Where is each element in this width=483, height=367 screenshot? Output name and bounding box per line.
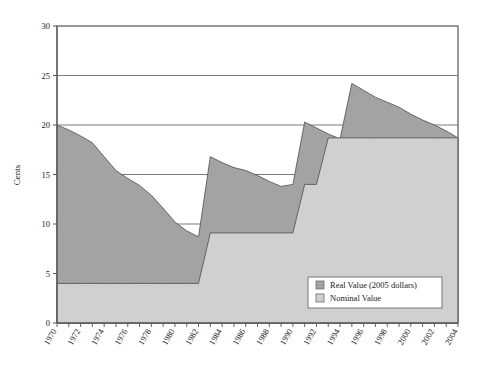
y-tick-label-20: 20 xyxy=(42,120,51,130)
legend-label-0: Real Value (2005 dollars) xyxy=(330,280,417,290)
area-chart: 051015202530 Cents 197019721974197619781… xyxy=(0,0,483,367)
y-tick-label-5: 5 xyxy=(46,269,50,279)
legend-swatch-0 xyxy=(316,281,324,289)
y-axis-title: Cents xyxy=(12,164,22,185)
y-tick-label-0: 0 xyxy=(46,318,50,328)
legend-label-1: Nominal Value xyxy=(330,293,381,303)
y-tick-label-10: 10 xyxy=(42,219,51,229)
legend: Real Value (2005 dollars)Nominal Value xyxy=(308,277,442,308)
y-tick-label-25: 25 xyxy=(42,71,51,81)
y-tick-label-30: 30 xyxy=(42,21,51,31)
legend-swatch-1 xyxy=(316,294,324,302)
chart-container: 051015202530 Cents 197019721974197619781… xyxy=(0,0,483,367)
y-tick-label-15: 15 xyxy=(42,170,51,180)
